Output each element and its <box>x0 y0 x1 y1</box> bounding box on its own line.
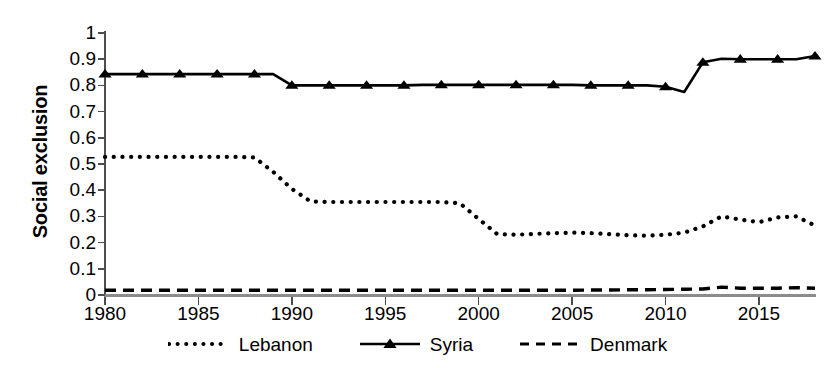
y-axis-tick <box>98 85 105 87</box>
x-axis-tick <box>385 297 387 305</box>
y-axis-tick <box>98 189 105 191</box>
x-axis-tick <box>758 297 760 305</box>
y-axis-tick <box>98 242 105 244</box>
dotted-line-swatch <box>168 337 230 351</box>
legend-item-lebanon[interactable]: Lebanon <box>168 335 313 354</box>
chart-legend: LebanonSyriaDenmark <box>0 329 835 359</box>
dashed-line-swatch <box>519 337 581 351</box>
series-syria <box>98 51 821 92</box>
line-chart-figure: Social exclusion 10.90.80.70.60.50.40.30… <box>0 0 835 368</box>
y-axis-tick <box>98 268 105 270</box>
series-line-syria <box>105 56 815 92</box>
x-axis-tick <box>104 297 106 305</box>
x-axis-tick <box>571 297 573 305</box>
y-axis-tick <box>98 58 105 60</box>
series-line-denmark <box>105 287 815 290</box>
triangle-line-swatch <box>359 337 421 351</box>
y-axis-tick <box>98 137 105 139</box>
legend-item-syria[interactable]: Syria <box>359 335 473 354</box>
series-line-lebanon <box>105 157 815 236</box>
data-point-marker <box>808 51 821 60</box>
series-lebanon <box>105 157 815 236</box>
series-denmark <box>105 287 815 290</box>
legend-label: Denmark <box>590 335 667 354</box>
x-axis-tick <box>198 297 200 305</box>
legend-label: Lebanon <box>239 335 313 354</box>
x-axis-tick <box>291 297 293 305</box>
series-plot-area <box>0 0 835 368</box>
y-axis-tick <box>98 294 105 296</box>
x-axis-tick <box>478 297 480 305</box>
y-axis-tick <box>98 216 105 218</box>
y-axis-tick <box>98 163 105 165</box>
y-axis-tick <box>98 32 105 34</box>
legend-label: Syria <box>430 335 473 354</box>
legend-item-denmark[interactable]: Denmark <box>519 335 667 354</box>
y-axis-tick <box>98 111 105 113</box>
x-axis-tick <box>665 297 667 305</box>
